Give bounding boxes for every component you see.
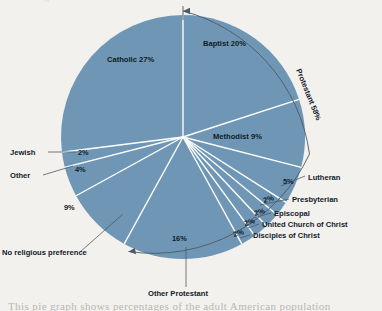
label-pct-lutheran: 5% [283,177,294,186]
label-episcopal: Episcopal [274,209,310,218]
label-methodist: Methodist 9% [213,132,262,141]
label-pct-no-pref: 9% [64,203,75,212]
label-baptist: Baptist 20% [203,39,246,48]
label-other-protestant: Other Protestant [148,289,208,298]
pie-slice [61,15,183,152]
label-other: Other [10,171,30,180]
pie-chart-figure: Catholic 27% Baptist 20% Methodist 9% 16… [0,0,382,311]
label-no-religious-preference: No religious preference [2,248,87,257]
other-protestant-bracket-arrowhead [129,248,137,254]
label-pct-other-protestant: 16% [172,234,187,243]
label-disciples: Disciples of Christ [253,231,320,240]
label-catholic: Catholic 27% [107,55,155,64]
label-ucc: United Church of Christ [262,220,348,229]
label-presbyterian: Presbyterian [292,195,338,204]
figure-caption: This pie graph shows percentages of the … [8,300,378,311]
label-pct-jewish: 2% [78,148,89,157]
label-lutheran: Lutheran [308,173,341,182]
label-pct-other: 4% [75,165,86,174]
protestant-bracket-arrowhead [183,8,190,14]
label-jewish: Jewish [10,148,36,157]
